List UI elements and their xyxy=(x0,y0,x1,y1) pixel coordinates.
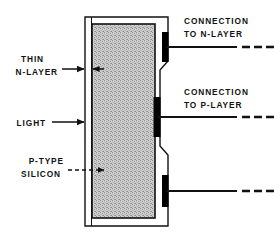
connection-p-label-line2: TO P-LAYER xyxy=(184,100,242,110)
p-type-silicon-label-line1: P-TYPE xyxy=(29,156,64,166)
photocell-cross-section-diagram: THIN N-LAYER LIGHT P-TYPE SILICON CONNEC… xyxy=(0,0,280,239)
connection-p-label-line1: CONNECTION xyxy=(184,87,249,97)
thin-n-layer-label-line1: THIN xyxy=(21,54,44,64)
p-type-silicon-region xyxy=(92,24,155,218)
connection-n-label-line1: CONNECTION xyxy=(184,16,249,26)
thin-n-layer-label-line2: N-LAYER xyxy=(16,67,58,77)
p-type-silicon-label-line2: SILICON xyxy=(21,169,61,179)
connection-n-label-line2: TO N-LAYER xyxy=(184,29,243,39)
light-label: LIGHT xyxy=(17,118,46,128)
diagram-canvas: THIN N-LAYER LIGHT P-TYPE SILICON CONNEC… xyxy=(0,0,280,239)
